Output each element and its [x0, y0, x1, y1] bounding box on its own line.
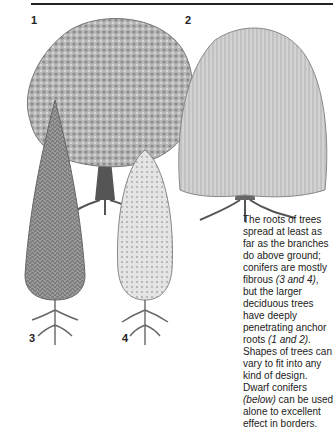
- figure-label-2: 2: [185, 14, 191, 26]
- caption-text: The roots of trees spread at least as fa…: [243, 214, 335, 430]
- figure-label-1: 1: [31, 14, 37, 26]
- tree-2-illustration: [179, 28, 327, 222]
- caption-ref-1-2: (1 and 2): [268, 334, 308, 345]
- tree-4-illustration: [117, 150, 172, 345]
- caption-ref-3-4: (3 and 4): [276, 274, 316, 285]
- caption-ref-below: (below): [243, 394, 276, 405]
- figure-label-4: 4: [122, 332, 128, 344]
- figure-label-3: 3: [29, 332, 35, 344]
